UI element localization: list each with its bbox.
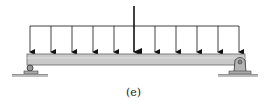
beam [27, 54, 245, 65]
roller-support-left [12, 65, 48, 77]
figure-caption: (e) [0, 86, 267, 99]
